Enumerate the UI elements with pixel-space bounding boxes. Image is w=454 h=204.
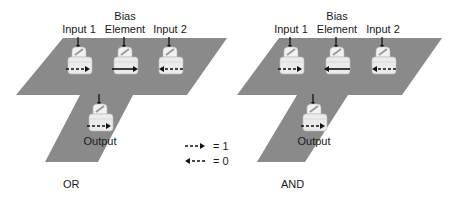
element-label: Bias [326,10,348,22]
dashed-left-arrow-icon [185,158,205,164]
panels: Input 1BiasElementInput 2OutputORInput 1… [16,10,442,190]
legend: = 1= 0 [185,140,229,167]
element-label: Input 2 [366,23,400,35]
gate-caption: OR [63,178,80,190]
element-label: Input 2 [153,23,187,35]
legend-label: = 0 [213,155,229,167]
legend-label: = 1 [213,140,229,152]
legend-item: = 0 [185,155,229,167]
element-label: Element [105,23,145,35]
logic-gate-diagram: Input 1BiasElementInput 2OutputORInput 1… [0,0,454,204]
dashed-right-arrow-icon [185,143,205,149]
element-label: Input 1 [274,23,308,35]
element-label: Output [297,135,330,147]
element-label: Bias [114,10,136,22]
element-label: Element [317,23,357,35]
panel-or: Input 1BiasElementInput 2OutputOR [16,10,227,190]
element-label: Output [83,135,116,147]
element-label: Input 1 [62,23,96,35]
gate-caption: AND [281,178,304,190]
legend-item: = 1 [185,140,229,152]
panel-and: Input 1BiasElementInput 2OutputAND [237,10,442,190]
